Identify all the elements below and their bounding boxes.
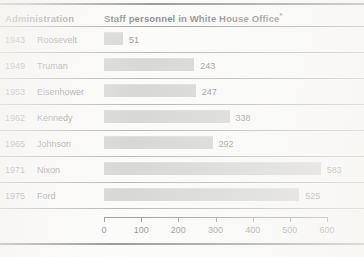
row-administration-name: Johnson (37, 139, 71, 149)
row-year: 1962 (5, 113, 25, 123)
column-header-staff-text: Staff personnel in White House Office (104, 13, 280, 24)
row-administration-name: Kennedy (37, 113, 73, 123)
bar (104, 58, 194, 71)
row-year: 1953 (5, 87, 25, 97)
bar-value-label: 525 (305, 191, 320, 201)
table-row[interactable]: 1965Johnson292 (0, 131, 364, 157)
bar-value-label: 243 (200, 61, 215, 71)
row-administration-name: Ford (37, 191, 56, 201)
axis-tick (253, 217, 254, 222)
row-year: 1975 (5, 191, 25, 201)
table-row[interactable]: 1971Nixon583 (0, 157, 364, 183)
bottom-rule (0, 243, 364, 245)
bar-value-label: 51 (129, 35, 139, 45)
bar-value-label: 292 (219, 139, 234, 149)
table-row[interactable]: 1975Ford525 (0, 183, 364, 209)
bar-value-label: 247 (202, 87, 217, 97)
axis-tick-label: 0 (101, 225, 106, 235)
bar (104, 32, 123, 45)
axis-tick-label: 400 (245, 225, 260, 235)
axis-tick (327, 217, 328, 222)
axis-tick (290, 217, 291, 222)
table-row[interactable]: 1953Eisenhower247 (0, 79, 364, 105)
bar (104, 188, 299, 201)
row-year: 1965 (5, 139, 25, 149)
bar-value-label: 583 (327, 165, 342, 175)
axis-tick-label: 300 (208, 225, 223, 235)
bar (104, 136, 213, 149)
axis-tick-label: 100 (134, 225, 149, 235)
chart-figure: Administration Staff personnel in White … (0, 0, 364, 257)
table-row[interactable]: 1943Roosevelt51 (0, 27, 364, 53)
column-header-staff-personnel: Staff personnel in White House Office* (104, 13, 282, 24)
row-year: 1971 (5, 165, 25, 175)
axis-tick (141, 217, 142, 222)
axis-tick-label: 600 (319, 225, 334, 235)
footnote-asterisk: * (280, 12, 283, 19)
row-year: 1943 (5, 35, 25, 45)
bar (104, 162, 321, 175)
axis-tick (104, 217, 105, 222)
axis-tick-label: 200 (171, 225, 186, 235)
row-administration-name: Eisenhower (37, 87, 84, 97)
top-rule (0, 3, 364, 5)
axis-tick (178, 217, 179, 222)
row-administration-name: Nixon (37, 165, 60, 175)
axis-tick-label: 500 (282, 225, 297, 235)
row-administration-name: Roosevelt (37, 35, 77, 45)
column-header-administration: Administration (5, 13, 74, 24)
axis-tick (216, 217, 217, 222)
table-row[interactable]: 1962Kennedy338 (0, 105, 364, 131)
row-year: 1949 (5, 61, 25, 71)
bar (104, 84, 196, 97)
table-row[interactable]: 1949Truman243 (0, 53, 364, 79)
bar-value-label: 338 (236, 113, 251, 123)
row-separator (0, 208, 364, 209)
row-administration-name: Truman (37, 61, 68, 71)
bar (104, 110, 230, 123)
